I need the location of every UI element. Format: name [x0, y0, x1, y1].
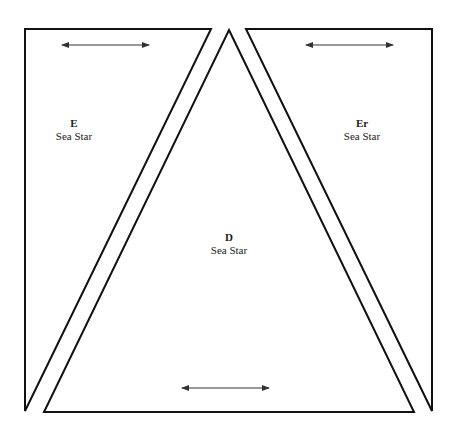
label-d: D Sea Star [189, 231, 269, 256]
piece-d-outline [44, 30, 414, 412]
piece-name: Sea Star [34, 130, 114, 143]
piece-letter: E [34, 117, 114, 130]
label-e: E Sea Star [34, 117, 114, 142]
piece-letter: Er [322, 117, 402, 130]
piece-er-outline [246, 29, 432, 411]
piece-letter: D [189, 231, 269, 244]
label-er: Er Sea Star [322, 117, 402, 142]
piece-e-outline [25, 29, 211, 411]
piece-name: Sea Star [189, 244, 269, 257]
pattern-diagram [0, 0, 455, 437]
piece-name: Sea Star [322, 130, 402, 143]
